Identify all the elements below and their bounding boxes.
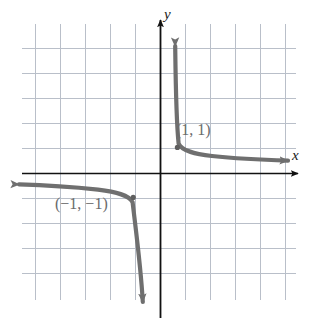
y-axis-label: y (164, 7, 171, 22)
vertex-point-negative (131, 195, 136, 200)
point-label-neg1-neg1: (−1, −1) (55, 196, 108, 212)
point-label-1-1: (1, 1) (176, 122, 211, 138)
x-axis-label: x (292, 148, 299, 163)
graph-figure: y x (1, 1) (−1, −1) (0, 0, 316, 326)
coordinate-plane (0, 0, 316, 326)
grid-lines (22, 24, 296, 300)
vertex-point-positive (175, 145, 180, 150)
curve-branch-positive (175, 46, 288, 161)
